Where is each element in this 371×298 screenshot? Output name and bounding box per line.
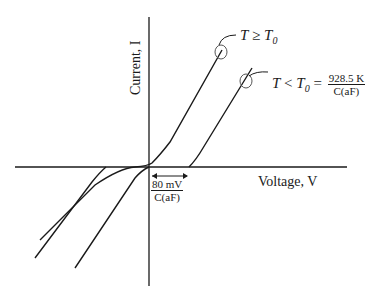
t0-denominator: C(aF) [328,85,365,97]
annotation-t-above-t0: T ≥ T0 [240,27,277,46]
iv-curve-plot [0,0,371,298]
leader-line-2 [249,72,268,76]
gap-denominator: C(aF) [154,191,180,203]
gap-numerator: 80 mV [151,178,183,191]
annot2-eq: = [310,75,326,91]
annot2-t0: T [296,75,304,91]
y-axis-label: Current, I [128,41,144,95]
gap-voltage-label: 80 mV C(aF) [151,178,183,203]
annot1-rel: ≥ [248,27,264,43]
t0-fraction: 928.5 KC(aF) [328,72,365,97]
leader-line-1 [219,35,236,45]
t0-numerator: 928.5 K [328,72,365,85]
curve-t-below-t0-right [189,68,252,167]
x-axis-label: Voltage, V [258,174,317,190]
curve-t-above-t0-left [75,167,149,268]
curve-t-below-t0-left [35,167,106,258]
marker-circle-2 [240,74,252,88]
annotation-t-below-t0: T < T0 = 928.5 KC(aF) [272,72,365,97]
annot1-sub: 0 [272,35,277,46]
annot2-rel: < [280,75,296,91]
arrowhead-right [183,173,188,179]
